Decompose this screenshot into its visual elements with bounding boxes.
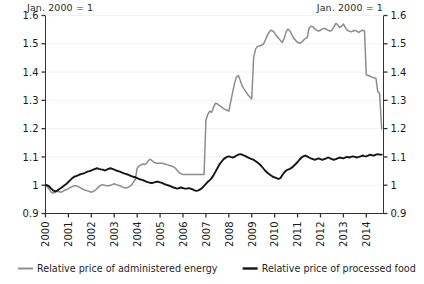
svg-text:1.3: 1.3 bbox=[23, 95, 39, 106]
svg-text:2011: 2011 bbox=[292, 222, 303, 247]
svg-text:0.9: 0.9 bbox=[23, 208, 39, 219]
svg-text:2013: 2013 bbox=[338, 222, 349, 247]
svg-text:1.5: 1.5 bbox=[23, 38, 39, 49]
svg-text:1.1: 1.1 bbox=[23, 152, 39, 163]
svg-text:2008: 2008 bbox=[224, 222, 235, 247]
svg-text:2002: 2002 bbox=[86, 222, 97, 247]
chart-legend: Relative price of administered energyRel… bbox=[18, 263, 416, 274]
svg-text:2014: 2014 bbox=[361, 222, 372, 247]
svg-text:1.5: 1.5 bbox=[391, 38, 407, 49]
svg-text:1.1: 1.1 bbox=[391, 152, 407, 163]
svg-text:1.2: 1.2 bbox=[23, 123, 39, 134]
svg-text:1: 1 bbox=[32, 180, 38, 191]
y-axis-right-ticks: 0.911.11.21.31.41.51.6 bbox=[384, 10, 407, 219]
svg-text:2010: 2010 bbox=[269, 222, 280, 247]
svg-text:1.3: 1.3 bbox=[391, 95, 407, 106]
chart-figure: Jan. 2000 = 1 Jan. 2000 = 1 0.911.11.21.… bbox=[0, 0, 424, 284]
x-axis-ticks: 2000200120022003200420052006200720082009… bbox=[40, 214, 372, 247]
svg-text:1.6: 1.6 bbox=[391, 10, 407, 21]
axis-lines bbox=[46, 16, 384, 214]
svg-text:2004: 2004 bbox=[132, 222, 143, 247]
svg-text:2001: 2001 bbox=[63, 222, 74, 247]
svg-text:2006: 2006 bbox=[178, 222, 189, 247]
svg-text:1.4: 1.4 bbox=[23, 67, 39, 78]
svg-text:2012: 2012 bbox=[315, 222, 326, 247]
svg-text:0.9: 0.9 bbox=[391, 208, 407, 219]
svg-text:1.6: 1.6 bbox=[23, 10, 39, 21]
svg-text:1.4: 1.4 bbox=[391, 67, 407, 78]
svg-text:1: 1 bbox=[391, 180, 397, 191]
svg-text:Relative price of administered: Relative price of administered energy bbox=[37, 263, 218, 274]
svg-text:2009: 2009 bbox=[247, 222, 258, 247]
line-chart-plot: 0.911.11.21.31.41.51.6 0.911.11.21.31.41… bbox=[0, 0, 424, 284]
data-series-group bbox=[46, 23, 382, 193]
svg-text:2003: 2003 bbox=[109, 222, 120, 247]
svg-text:2005: 2005 bbox=[155, 222, 166, 247]
svg-text:2000: 2000 bbox=[40, 222, 51, 247]
svg-text:Relative price of processed fo: Relative price of processed food bbox=[262, 263, 416, 274]
y-axis-left-ticks: 0.911.11.21.31.41.51.6 bbox=[23, 10, 46, 219]
svg-text:1.2: 1.2 bbox=[391, 123, 407, 134]
svg-text:2007: 2007 bbox=[201, 222, 212, 247]
